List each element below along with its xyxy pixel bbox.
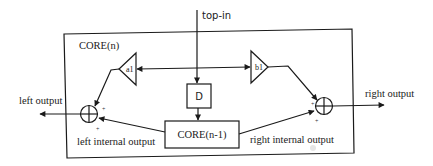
core-diagram: CORE(n) top-in a1 b1 D CORE(n-1) left in… xyxy=(0,0,433,166)
left-summer xyxy=(81,106,98,123)
right-output-arrow xyxy=(333,105,384,106)
gain-a1-label: a1 xyxy=(126,65,134,74)
right-summer xyxy=(316,98,333,115)
top-in-label: top-in xyxy=(202,10,231,21)
to-b1-arrow xyxy=(197,67,250,68)
b1-to-right-sum-arrow xyxy=(268,66,317,100)
core-n-minus-1-label: CORE(n-1) xyxy=(178,129,227,141)
left-internal-output-label: left internal output xyxy=(77,136,155,147)
left-sum-plus-bottom: + xyxy=(96,126,100,132)
left-sum-plus-top: + xyxy=(102,106,106,112)
a1-to-left-sum-arrow xyxy=(95,69,119,106)
gain-b1-label: b1 xyxy=(255,63,263,72)
core-n-label: CORE(n) xyxy=(79,40,120,52)
to-a1-arrow xyxy=(137,68,197,69)
right-sum-plus-top: + xyxy=(311,101,315,107)
right-internal-arrow xyxy=(239,111,314,134)
left-output-label: left output xyxy=(19,95,63,106)
left-internal-arrow xyxy=(99,118,165,132)
delay-label: D xyxy=(195,91,203,102)
right-internal-output-label: right internal output xyxy=(250,134,334,145)
scan-smudge xyxy=(310,145,316,151)
right-sum-plus-bottom: + xyxy=(315,118,319,124)
right-output-label: right output xyxy=(365,88,414,99)
